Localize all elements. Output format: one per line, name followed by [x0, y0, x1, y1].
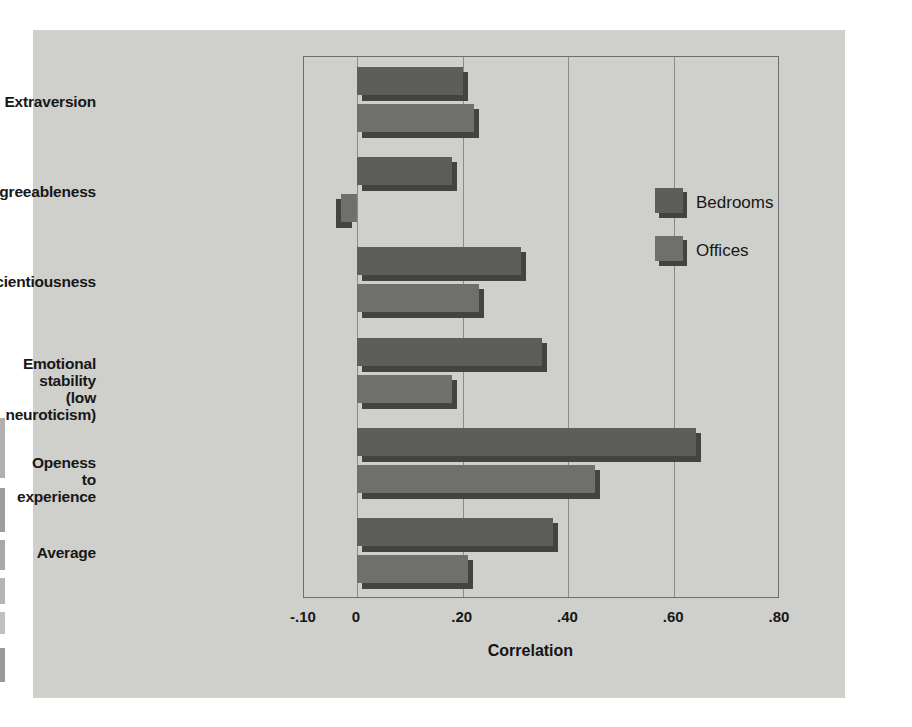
- gridline: [568, 57, 569, 597]
- legend-label-bedrooms: Bedrooms: [696, 193, 773, 213]
- bar-offices-0: [357, 104, 479, 138]
- x-tick-label-1: 0: [352, 608, 360, 625]
- gridline: [674, 57, 675, 597]
- bar-bedrooms-2: [357, 247, 526, 281]
- scan-artifact: [0, 648, 5, 682]
- scan-artifact: [0, 578, 5, 604]
- bar-offices-3: [357, 375, 457, 409]
- legend-entry-offices[interactable]: Offices: [655, 233, 773, 269]
- light-grey-swatch-icon: [655, 236, 687, 266]
- bar-offices-5: [357, 555, 473, 589]
- x-tick-label-4: .60: [663, 608, 684, 625]
- x-tick-label-2: .20: [451, 608, 472, 625]
- scan-artifact: [0, 418, 5, 478]
- scan-artifact: [0, 488, 5, 532]
- bar-offices-4: [357, 465, 600, 499]
- category-label-5: Average: [37, 544, 96, 561]
- x-axis-title: Correlation: [488, 642, 573, 660]
- gridline: [357, 57, 358, 597]
- scan-artifact: [0, 612, 5, 634]
- category-label-2: Conscientiousness: [0, 273, 96, 290]
- chart-figure-panel: ExtraversionAgreeablenessConscientiousne…: [33, 30, 845, 698]
- scanned-page: ExtraversionAgreeablenessConscientiousne…: [0, 0, 912, 727]
- dark-grey-swatch-icon: [655, 188, 687, 218]
- x-tick-label-3: .40: [557, 608, 578, 625]
- bar-bedrooms-0: [357, 67, 468, 101]
- gridline: [463, 57, 464, 597]
- category-label-0: Extraversion: [4, 93, 96, 110]
- chart-legend: Bedrooms Offices: [655, 185, 773, 281]
- x-tick-label-0: -.10: [290, 608, 316, 625]
- legend-label-offices: Offices: [696, 241, 749, 261]
- scan-artifact: [0, 540, 5, 570]
- bar-bedrooms-1: [357, 157, 457, 191]
- category-label-4: Openess to experience: [17, 454, 96, 505]
- plot-area: [303, 56, 779, 598]
- bar-bedrooms-3: [357, 338, 547, 372]
- legend-entry-bedrooms[interactable]: Bedrooms: [655, 185, 773, 221]
- bar-offices-1: [336, 194, 357, 228]
- bar-offices-2: [357, 284, 484, 318]
- x-tick-label-5: .80: [769, 608, 790, 625]
- bar-bedrooms-4: [357, 428, 701, 462]
- bar-bedrooms-5: [357, 518, 558, 552]
- category-label-3: Emotional stability (low neuroticism): [5, 355, 96, 423]
- category-label-1: Agreeableness: [0, 183, 96, 200]
